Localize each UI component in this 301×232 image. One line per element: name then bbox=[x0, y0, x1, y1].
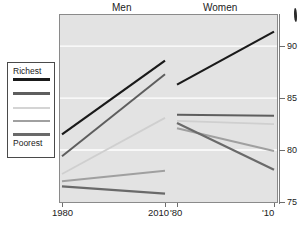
series-line-quintile-2 bbox=[177, 115, 274, 116]
corner-mark-icon bbox=[294, 8, 297, 22]
x-tick-mark-2 bbox=[177, 203, 178, 207]
x-tick-mark-0 bbox=[62, 203, 63, 207]
chart-legend: Richest Poorest bbox=[7, 62, 55, 158]
series-line-quintile-4 bbox=[62, 171, 165, 181]
series-line-quintile-3 bbox=[62, 118, 165, 174]
panel-title-women: Women bbox=[203, 2, 237, 13]
y-tick-label-75: 75 bbox=[287, 197, 297, 207]
plot-svg bbox=[60, 15, 277, 202]
quintile4-swatch bbox=[13, 120, 50, 122]
y-tick-label-90: 90 bbox=[287, 41, 297, 51]
x-tick-label-1980: 1980 bbox=[52, 207, 73, 218]
y-axis-line bbox=[279, 14, 280, 204]
quintile2-swatch bbox=[13, 92, 50, 95]
legend-swatch-list bbox=[13, 78, 50, 136]
series-line-quintile-4 bbox=[177, 128, 274, 151]
series-line-richest bbox=[177, 32, 274, 85]
quintile3-swatch bbox=[13, 107, 50, 109]
series-line-poorest bbox=[177, 123, 274, 170]
poorest-swatch bbox=[13, 133, 50, 136]
panel-men bbox=[62, 61, 165, 194]
legend-label-poorest: Poorest bbox=[13, 138, 50, 148]
panel-women bbox=[177, 32, 274, 170]
y-tick-mark-75 bbox=[279, 202, 285, 203]
x-tick-label-2010: 2010 bbox=[148, 207, 169, 218]
x-tick-label-q10: '10 bbox=[262, 207, 274, 218]
panel-title-men: Men bbox=[112, 2, 131, 13]
series-line-quintile-2 bbox=[62, 74, 165, 156]
richest-swatch bbox=[13, 78, 50, 81]
y-tick-label-85: 85 bbox=[287, 93, 297, 103]
y-tick-mark-85 bbox=[279, 98, 285, 99]
plot-area bbox=[59, 14, 278, 203]
series-line-poorest bbox=[62, 186, 165, 193]
x-tick-mark-1 bbox=[165, 203, 166, 207]
y-tick-label-80: 80 bbox=[287, 145, 297, 155]
y-tick-mark-90 bbox=[279, 46, 285, 47]
series-line-quintile-3 bbox=[177, 121, 274, 124]
legend-label-richest: Richest bbox=[13, 66, 50, 76]
x-tick-label-q80: '80 bbox=[170, 207, 182, 218]
x-tick-mark-3 bbox=[274, 203, 275, 207]
y-tick-mark-80 bbox=[279, 150, 285, 151]
chart-root: Men Women 90858075 19802010'80'10 Riches… bbox=[0, 0, 301, 232]
